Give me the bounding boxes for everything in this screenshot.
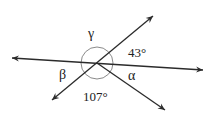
horizontal-line [12, 58, 203, 70]
label-angle-43: 43° [128, 45, 146, 60]
label-gamma: γ [87, 26, 94, 41]
label-beta: β [59, 67, 66, 82]
label-angle-107: 107° [83, 89, 108, 104]
label-alpha: α [128, 68, 136, 83]
angle-diagram: γ 43° β α 107° [0, 0, 208, 113]
